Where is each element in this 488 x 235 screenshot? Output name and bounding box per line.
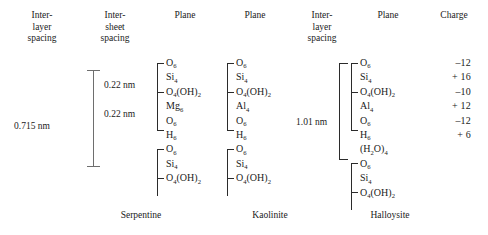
plane-row: Si4 [166, 157, 201, 171]
plane-row: Si4 [166, 70, 201, 84]
kaolinite-lower-sheet-bracket [227, 149, 234, 196]
plane-row: O4(OH)2 [166, 85, 201, 99]
kaolinite-lower-sheet-mid-tick [227, 178, 234, 179]
plane-row: O4(OH)2 [360, 186, 395, 200]
header-plane-halloysite: Plane [358, 10, 418, 22]
kaolinite-plane-stack: O6 Si4 O4(OH)2 Al4 O6 H6 O6 Si4 O4(OH)2 [236, 56, 271, 186]
charge-row: + 6 [437, 128, 471, 142]
plane-row: (H2O)4 [360, 142, 395, 156]
serpentine-lower-sheet-mid-tick [157, 178, 164, 179]
halloysite-upper-sheet-bracket [351, 63, 358, 131]
charge-stack: –12 + 16 –10 + 12 –12 + 6 [437, 56, 471, 142]
plane-row: O6 [236, 56, 271, 70]
plane-row: Si4 [236, 70, 271, 84]
plane-row: H6 [166, 128, 201, 142]
plane-row: Si4 [236, 157, 271, 171]
header-interlayer-spacing-right: Inter- layer spacing [290, 10, 354, 45]
charge-row: + 12 [437, 99, 471, 113]
plane-row: O6 [360, 114, 395, 128]
halloysite-plane-stack: O6 Si4 O4(OH)2 Al4 O6 H6 (H2O)4 O6 Si4 O… [360, 56, 395, 200]
halloysite-interlayer-spacing-label: 1.01 nm [296, 116, 327, 128]
kaolinite-upper-sheet-bracket [227, 63, 234, 131]
header-plane-serpentine: Plane [155, 10, 215, 22]
mineral-label-halloysite: Halloysite [330, 209, 450, 221]
intersheet-measure-cap-top [87, 70, 100, 71]
plane-row: O6 [166, 142, 201, 156]
serpentine-interlayer-spacing-label: 0.715 nm [14, 120, 50, 132]
plane-row: O6 [166, 56, 201, 70]
serpentine-plane-stack: O6 Si4 O4(OH)2 Mg6 O6 H6 O6 Si4 O4(OH)2 [166, 56, 201, 186]
plane-row: O6 [236, 142, 271, 156]
plane-row: H6 [360, 128, 395, 142]
plane-row: Mg6 [166, 99, 201, 113]
plane-row: O4(OH)2 [166, 171, 201, 185]
charge-row: + 16 [437, 70, 471, 84]
serpentine-intersheet-spacing-bottom-label: 0.22 nm [104, 108, 135, 120]
plane-row: Si4 [360, 70, 395, 84]
kaolinite-upper-sheet-mid-tick [227, 92, 234, 93]
serpentine-lower-sheet-bracket [157, 149, 164, 196]
header-charge: Charge [425, 10, 483, 22]
header-plane-kaolinite: Plane [225, 10, 285, 22]
intersheet-measure-bar [93, 70, 94, 166]
serpentine-upper-sheet-mid-tick [157, 92, 164, 93]
plane-row: Si4 [360, 171, 395, 185]
plane-row: H6 [236, 128, 271, 142]
plane-row: O6 [236, 114, 271, 128]
serpentine-intersheet-spacing-top-label: 0.22 nm [104, 79, 135, 91]
halloysite-interlayer-bracket [339, 63, 348, 160]
header-interlayer-spacing-left: Inter- layer spacing [10, 10, 74, 45]
header-intersheet-spacing: Inter- sheet spacing [83, 10, 147, 45]
plane-row: O6 [360, 56, 395, 70]
charge-row: –10 [437, 85, 471, 99]
charge-row: –12 [437, 56, 471, 70]
plane-row: Al4 [360, 99, 395, 113]
plane-row: O6 [360, 157, 395, 171]
plane-row: O4(OH)2 [360, 85, 395, 99]
halloysite-lower-sheet-bracket [351, 163, 358, 210]
serpentine-upper-sheet-bracket [157, 63, 164, 131]
plane-row: O4(OH)2 [236, 85, 271, 99]
charge-row: –12 [437, 114, 471, 128]
halloysite-upper-sheet-mid-tick [351, 92, 358, 93]
halloysite-lower-sheet-mid-tick [351, 192, 358, 193]
plane-row: Al4 [236, 99, 271, 113]
intersheet-measure-cap-bottom [87, 166, 100, 167]
plane-row: O6 [166, 114, 201, 128]
plane-row: O4(OH)2 [236, 171, 271, 185]
